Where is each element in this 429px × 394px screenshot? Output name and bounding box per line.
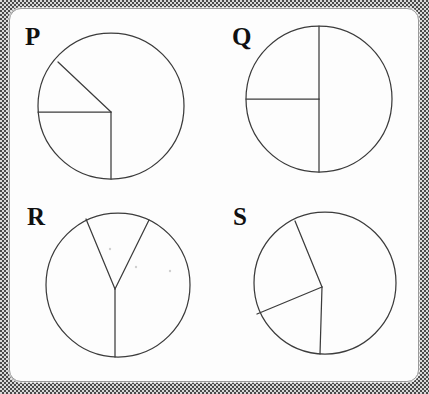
circle-group-q: Q [232, 23, 392, 172]
circle-group-s: S [233, 203, 396, 354]
circle-r-radius-upper-right [115, 220, 149, 289]
figure-white-panel: P Q R [9, 8, 419, 382]
circle-s-radius-down [320, 287, 322, 354]
circle-label-r: R [27, 203, 46, 230]
circles-diagram: P Q R [10, 9, 418, 381]
circle-label-q: Q [232, 23, 251, 50]
figure-outer-frame: P Q R [0, 0, 429, 394]
circle-group-r: R [27, 203, 190, 357]
circle-s-outline [254, 212, 396, 354]
paper-speck [169, 270, 171, 272]
paper-speck [135, 266, 137, 268]
circle-r-outline [46, 213, 190, 357]
circle-r-radius-upper-left [86, 219, 115, 289]
circle-s-radius-lower-left [257, 287, 322, 314]
circle-p-radius-upper-left [58, 62, 111, 112]
paper-speck [109, 248, 111, 250]
circle-group-p: P [25, 23, 184, 179]
circle-label-s: S [233, 203, 247, 230]
circle-label-p: P [25, 23, 40, 50]
circle-s-radius-upper-left [295, 221, 322, 287]
